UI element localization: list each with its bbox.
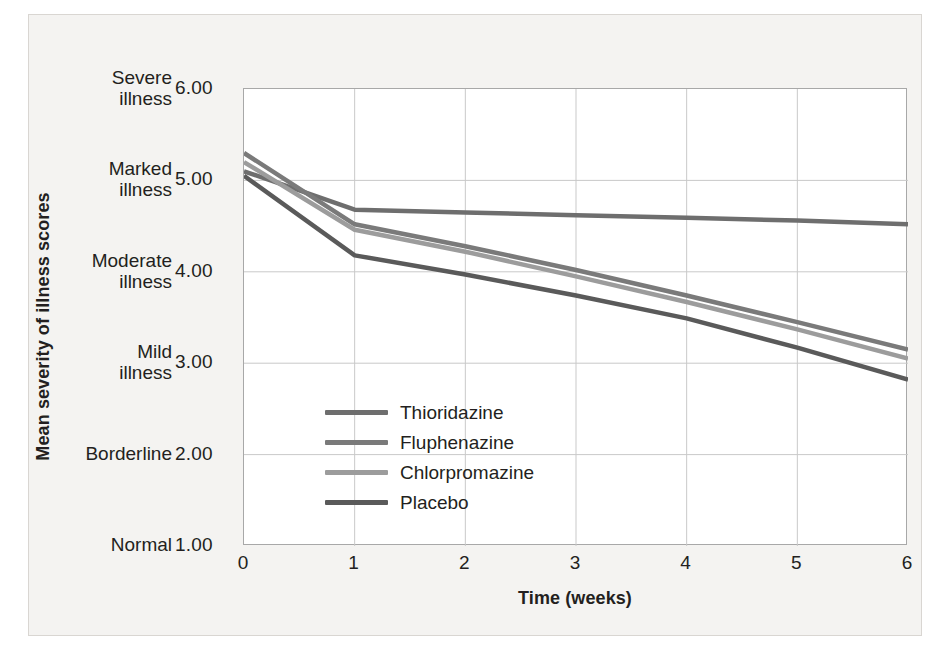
y-axis-tick-label: 2.00 xyxy=(175,444,235,463)
y-axis-category-label-line1: Borderline xyxy=(58,443,172,464)
y-axis-tick-label: 4.00 xyxy=(175,261,235,280)
y-axis-category-label-line1: Moderate xyxy=(58,250,172,271)
y-axis-tick-label: 3.00 xyxy=(175,352,235,371)
y-axis-category-label: Mildillness xyxy=(58,341,172,383)
y-axis-tick-label: 6.00 xyxy=(175,78,235,97)
y-axis-category-label-line2: illness xyxy=(58,271,172,292)
chart-figure: SevereillnessMarkedillnessModerateillnes… xyxy=(0,0,950,657)
x-axis-tick-label: 4 xyxy=(666,552,706,574)
chart-legend: ThioridazineFluphenazineChlorpromazinePl… xyxy=(325,398,575,518)
x-axis-tick-label: 6 xyxy=(887,552,927,574)
y-axis-category-label-line1: Marked xyxy=(58,158,172,179)
x-axis-tick-label: 1 xyxy=(334,552,374,574)
legend-item-label: Placebo xyxy=(400,488,469,517)
legend-color-swatch xyxy=(325,410,388,415)
x-axis-tick-label: 5 xyxy=(776,552,816,574)
x-axis-title: Time (weeks) xyxy=(243,588,907,609)
y-axis-category-label-line1: Mild xyxy=(58,341,172,362)
legend-color-swatch xyxy=(325,500,388,505)
legend-item-label: Thioridazine xyxy=(400,398,504,427)
legend-item-label: Fluphenazine xyxy=(400,428,514,457)
legend-color-swatch xyxy=(325,440,388,445)
y-axis-tick-label: 5.00 xyxy=(175,169,235,188)
legend-item-label: Chlorpromazine xyxy=(400,458,534,487)
y-axis-title: Mean severity of illness scores xyxy=(33,147,54,507)
legend-item: Chlorpromazine xyxy=(325,458,575,488)
legend-color-swatch xyxy=(325,470,388,475)
x-axis-tick-label: 0 xyxy=(223,552,263,574)
y-axis-category-label: Moderateillness xyxy=(58,250,172,292)
y-axis-category-label: Borderline xyxy=(58,443,172,464)
y-axis-category-label-line2: illness xyxy=(58,179,172,200)
y-axis-category-label: Severeillness xyxy=(58,67,172,109)
y-axis-category-label-line2: illness xyxy=(58,88,172,109)
legend-item: Placebo xyxy=(325,488,575,518)
x-axis-tick-label: 3 xyxy=(555,552,595,574)
y-axis-category-label-line2: illness xyxy=(58,362,172,383)
legend-item: Fluphenazine xyxy=(325,428,575,458)
y-axis-category-label: Markedillness xyxy=(58,158,172,200)
x-axis-tick-label: 2 xyxy=(444,552,484,574)
x-axis-tick-labels: 0123456 xyxy=(0,552,950,582)
legend-item: Thioridazine xyxy=(325,398,575,428)
y-axis-category-label-line1: Severe xyxy=(58,67,172,88)
